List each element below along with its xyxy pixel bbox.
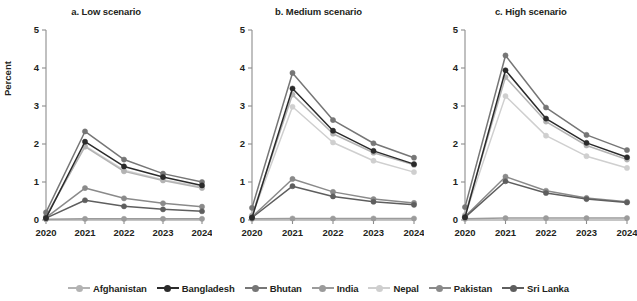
legend-item-bhutan[interactable]: Bhutan [245, 283, 302, 294]
plot-svg-low: 01234520202021202220232024 [0, 0, 212, 272]
legend-label: Nepal [393, 283, 418, 294]
y-tick-label: 3 [34, 100, 39, 111]
x-tick-label: 2022 [535, 227, 556, 238]
legend-marker-icon [502, 283, 524, 293]
y-tick-label: 4 [34, 62, 40, 73]
panel-high: c. High scenario 01234520202021202220232… [425, 0, 637, 272]
figure-root: a. Low scenario Percent 0123452020202120… [0, 0, 637, 301]
legend-marker-icon [368, 283, 390, 293]
x-tick-label: 2024 [616, 227, 637, 238]
plot-area-medium: 01234520202021202220232024 [212, 0, 424, 272]
y-tick-label: 2 [34, 138, 39, 149]
legend-marker-icon [429, 283, 451, 293]
legend-dot [252, 285, 259, 292]
y-tick-label: 4 [240, 62, 246, 73]
legend-dot [436, 285, 443, 292]
y-tick-label: 3 [452, 100, 457, 111]
x-tick-label: 2020 [454, 227, 475, 238]
y-tick-label: 5 [34, 24, 40, 35]
y-tick-label: 2 [452, 138, 457, 149]
legend-label: Bangladesh [182, 283, 235, 294]
panel-container: a. Low scenario Percent 0123452020202120… [0, 0, 637, 272]
legend-label: Afghanistan [93, 283, 147, 294]
y-tick-label: 0 [240, 214, 245, 225]
y-tick-label: 4 [452, 62, 458, 73]
legend-dot [510, 285, 517, 292]
plot-svg-medium: 01234520202021202220232024 [212, 0, 424, 272]
x-tick-label: 2021 [282, 227, 304, 238]
y-tick-label: 0 [34, 214, 39, 225]
legend-item-pakistan[interactable]: Pakistan [429, 283, 492, 294]
y-tick-label: 1 [452, 176, 458, 187]
plot-area-low: Percent 01234520202021202220232024 [0, 0, 212, 272]
y-tick-label: 5 [240, 24, 246, 35]
legend-item-bangladesh[interactable]: Bangladesh [157, 283, 235, 294]
legend-label: India [337, 283, 359, 294]
x-tick-label: 2023 [576, 227, 597, 238]
y-tick-label: 2 [240, 138, 245, 149]
legend-dot [376, 285, 383, 292]
legend-marker-icon [68, 283, 90, 293]
chart-legend: AfghanistanBangladeshBhutanIndiaNepalPak… [0, 277, 637, 299]
legend-dot [76, 285, 83, 292]
x-tick-label: 2021 [74, 227, 96, 238]
plot-area-high: 01234520202021202220232024 [425, 0, 637, 272]
plot-svg-high: 01234520202021202220232024 [425, 0, 637, 272]
series-pakistan [43, 185, 204, 220]
series-bhutan [462, 53, 629, 210]
x-tick-label: 2024 [191, 227, 212, 238]
legend-item-india[interactable]: India [312, 283, 359, 294]
x-tick-label: 2023 [152, 227, 173, 238]
legend-label: Pakistan [454, 283, 492, 294]
series-afghanistan [462, 75, 629, 218]
y-tick-label: 5 [452, 24, 458, 35]
x-tick-label: 2020 [242, 227, 263, 238]
y-tick-label: 1 [34, 176, 40, 187]
legend-item-nepal[interactable]: Nepal [368, 283, 418, 294]
x-tick-label: 2023 [363, 227, 384, 238]
y-tick-label: 0 [452, 214, 457, 225]
panel-low: a. Low scenario Percent 0123452020202120… [0, 0, 212, 272]
legend-marker-icon [245, 283, 267, 293]
y-tick-label: 3 [240, 100, 245, 111]
series-india [250, 216, 417, 222]
legend-item-afghanistan[interactable]: Afghanistan [68, 283, 147, 294]
y-tick-label: 1 [240, 176, 246, 187]
series-india [43, 216, 204, 222]
series-india [462, 216, 629, 222]
legend-marker-icon [312, 283, 334, 293]
legend-label: Bhutan [270, 283, 302, 294]
x-tick-label: 2022 [113, 227, 134, 238]
x-tick-label: 2024 [404, 227, 425, 238]
legend-marker-icon [157, 283, 179, 293]
legend-label: Sri Lanka [527, 283, 569, 294]
x-tick-label: 2022 [323, 227, 344, 238]
x-tick-label: 2021 [495, 227, 517, 238]
x-tick-label: 2020 [35, 227, 56, 238]
panel-medium: b. Medium scenario 012345202020212022202… [212, 0, 424, 272]
legend-item-sri-lanka[interactable]: Sri Lanka [502, 283, 569, 294]
legend-dot [164, 285, 171, 292]
legend-dot [319, 285, 326, 292]
